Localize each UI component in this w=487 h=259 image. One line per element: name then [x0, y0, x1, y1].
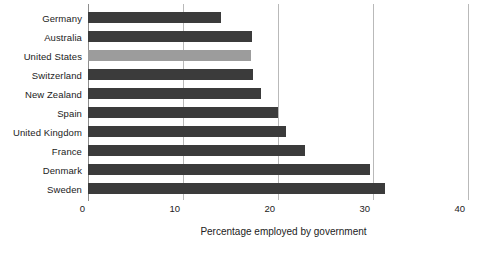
category-label-france: France: [0, 146, 82, 157]
category-label-switzerland: Switzerland: [0, 70, 82, 81]
x-tick-label-40: 40: [454, 203, 468, 215]
x-tick-label-30: 30: [359, 203, 373, 215]
bar-united-kingdom: [88, 126, 286, 137]
bar-sweden: [88, 183, 385, 194]
category-label-new-zealand: New Zealand: [0, 89, 82, 100]
x-tick-label-10: 10: [169, 203, 183, 215]
bar-united-states: [88, 50, 251, 61]
category-label-united-kingdom: United Kingdom: [0, 127, 82, 138]
category-label-germany: Germany: [0, 13, 82, 24]
bar-france: [88, 145, 305, 156]
category-label-australia: Australia: [0, 32, 82, 43]
x-axis-title-text: Percentage employed by government: [200, 226, 366, 237]
category-label-denmark: Denmark: [0, 165, 82, 176]
bar-spain: [88, 107, 278, 118]
x-axis-title: Percentage employed by government: [0, 226, 487, 237]
bar-australia: [88, 31, 252, 42]
bar-denmark: [88, 164, 370, 175]
x-tick-label-20: 20: [264, 203, 278, 215]
category-label-united-states: United States: [0, 51, 82, 62]
bar-chart: GermanyAustraliaUnited StatesSwitzerland…: [0, 0, 487, 259]
bar-germany: [88, 12, 221, 23]
category-label-sweden: Sweden: [0, 184, 82, 195]
bar-switzerland: [88, 69, 253, 80]
category-label-spain: Spain: [0, 108, 82, 119]
bar-new-zealand: [88, 88, 261, 99]
plot-area: GermanyAustraliaUnited StatesSwitzerland…: [0, 0, 487, 259]
x-tick-label-0: 0: [80, 203, 88, 215]
